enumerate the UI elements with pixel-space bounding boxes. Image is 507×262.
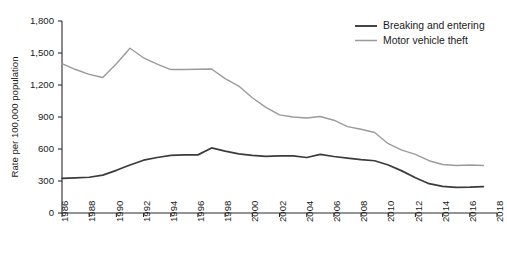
y-axis-ticks: 03006009001,2001,5001,800 bbox=[30, 15, 62, 218]
y-axis-title: Rate per 100,000 population bbox=[9, 56, 20, 177]
y-tick-label: 1,500 bbox=[30, 47, 54, 58]
legend-label-1: Breaking and entering bbox=[383, 20, 485, 31]
y-tick-label: 900 bbox=[38, 111, 54, 122]
x-tick-label: 1992 bbox=[141, 201, 152, 222]
chart-legend: Breaking and enteringMotor vehicle theft bbox=[355, 20, 485, 46]
x-tick-label: 1998 bbox=[222, 201, 233, 222]
x-tick-label: 1996 bbox=[195, 201, 206, 222]
x-axis-ticks: 1986198819901992199419961998200020022004… bbox=[59, 200, 505, 222]
x-tick-label: 1988 bbox=[86, 201, 97, 222]
x-tick-label: 2006 bbox=[331, 201, 342, 222]
x-tick-label: 2000 bbox=[249, 201, 260, 222]
x-tick-label: 2016 bbox=[467, 201, 478, 222]
y-tick-label: 1,200 bbox=[30, 79, 54, 90]
x-tick-label: 2008 bbox=[358, 201, 369, 222]
data-series bbox=[62, 48, 483, 187]
x-tick-label: 2002 bbox=[277, 201, 288, 222]
x-tick-label: 1986 bbox=[59, 201, 70, 222]
x-tick-label: 1990 bbox=[114, 201, 125, 222]
chart-canvas: Rate per 100,000 population 03006009001,… bbox=[0, 0, 507, 262]
x-tick-label: 2014 bbox=[440, 200, 451, 222]
x-tick-label: 2018 bbox=[494, 201, 505, 222]
line-chart: Rate per 100,000 population 03006009001,… bbox=[0, 0, 507, 262]
y-tick-label: 1,800 bbox=[30, 15, 54, 26]
x-tick-label: 2004 bbox=[304, 200, 315, 222]
legend-label-2: Motor vehicle theft bbox=[383, 35, 468, 46]
x-tick-label: 2010 bbox=[385, 201, 396, 222]
y-tick-label: 0 bbox=[49, 207, 54, 218]
y-tick-label: 300 bbox=[38, 175, 54, 186]
y-axis-title-text: Rate per 100,000 population bbox=[9, 56, 20, 177]
series-line-2 bbox=[62, 48, 483, 165]
series-line-1 bbox=[62, 148, 483, 187]
y-tick-label: 600 bbox=[38, 143, 54, 154]
x-tick-label: 1994 bbox=[168, 200, 179, 222]
x-tick-label: 2012 bbox=[413, 201, 424, 222]
